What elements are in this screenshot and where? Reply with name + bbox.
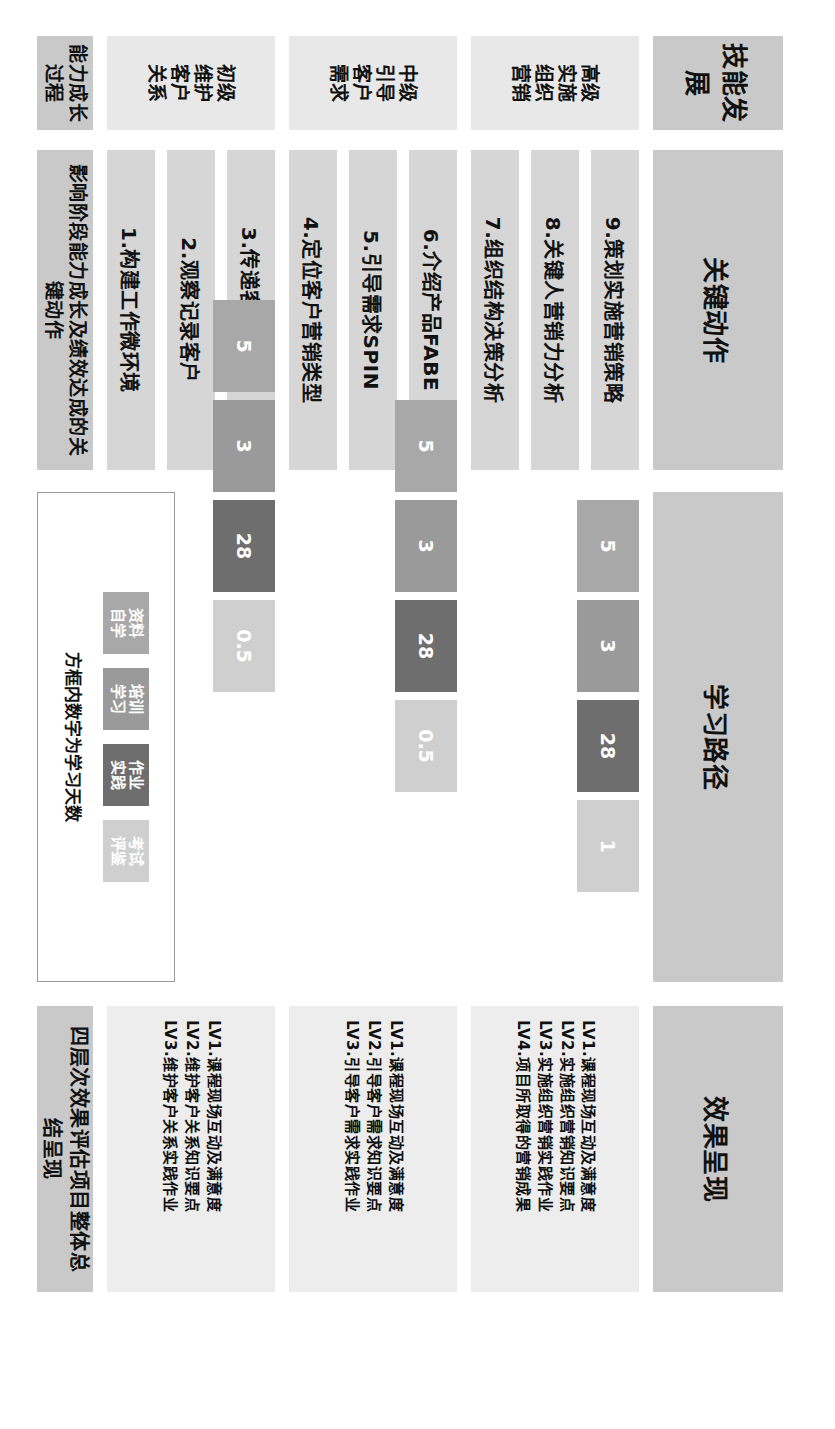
legend-chip-training: 培训 学习 <box>104 668 150 730</box>
action-item-4[interactable]: 4.定位客户营销类型 <box>289 150 337 470</box>
column-header-skill: 技能发展 <box>653 36 783 130</box>
outcome-summary: 四层次效果评估项目整体总结呈现 <box>37 1006 93 1292</box>
outcome-line: LV2.实施组织营销知识要点 <box>555 1020 577 1212</box>
level-label-growth-process: 能力成长过程 <box>37 36 93 130</box>
action-item-2[interactable]: 2.观察记录客户 <box>167 150 215 470</box>
legend-chips-row: 资料 自学 培训 学习 作业 实践 考试 评鉴 <box>104 592 150 882</box>
path-block-basic-exam[interactable]: 0.5 <box>213 600 275 692</box>
legend-chip-exam: 考试 评鉴 <box>104 820 150 882</box>
path-block-intermediate-practice[interactable]: 28 <box>395 600 457 692</box>
path-block-advanced-self-study[interactable]: 5 <box>577 500 639 592</box>
outcome-line: LV2.维护客户关系知识要点 <box>180 1020 202 1212</box>
action-item-9[interactable]: 9.策划实施营销策略 <box>591 150 639 470</box>
outcome-panel-intermediate: LV1.课程现场互动及满意度 LV2.引导客户需求知识要点 LV3.引导客户需求… <box>289 1006 457 1292</box>
outcome-line: LV3.引导客户需求实践作业 <box>340 1020 362 1212</box>
path-block-intermediate-self-study[interactable]: 5 <box>395 400 457 492</box>
path-block-intermediate-exam[interactable]: 0.5 <box>395 700 457 792</box>
rotated-diagram-wrapper: 技能发展 关键动作 学习路径 效果呈现 高级 实施 组织 营销 中级 引导 客户… <box>0 0 835 1429</box>
path-block-basic-self-study[interactable]: 5 <box>213 300 275 392</box>
outcome-line: LV3.维护客户关系实践作业 <box>158 1020 180 1212</box>
path-block-advanced-training[interactable]: 3 <box>577 600 639 692</box>
outcome-panel-advanced: LV1.课程现场互动及满意度 LV2.实施组织营销知识要点 LV3.实施组织营销… <box>471 1006 639 1292</box>
path-block-intermediate-training[interactable]: 3 <box>395 500 457 592</box>
legend: 资料 自学 培训 学习 作业 实践 考试 评鉴 方框内数字为学习天数 <box>37 492 175 982</box>
outcome-line: LV3.实施组织营销实践作业 <box>533 1020 555 1212</box>
path-block-advanced-practice[interactable]: 28 <box>577 700 639 792</box>
action-item-8[interactable]: 8.关键人营销力分析 <box>531 150 579 470</box>
bottom-summary-actions: 影响阶段能力成长及绩效达成的关键动作 <box>37 150 93 470</box>
outcome-line: LV2.引导客户需求知识要点 <box>362 1020 384 1212</box>
action-item-1[interactable]: 1.构建工作微环境 <box>107 150 155 470</box>
column-header-path: 学习路径 <box>653 492 783 982</box>
outcome-line: LV1.课程现场互动及满意度 <box>202 1020 224 1212</box>
column-header-outcome: 效果呈现 <box>653 1006 783 1292</box>
level-label-basic: 初级 维护 客户 关系 <box>107 36 275 130</box>
action-item-5[interactable]: 5.引导需求SPIN <box>349 150 397 470</box>
level-label-intermediate: 中级 引导 客户 需求 <box>289 36 457 130</box>
legend-chip-self-study: 资料 自学 <box>104 592 150 654</box>
action-item-7[interactable]: 7.组织结构决策分析 <box>471 150 519 470</box>
legend-chip-practice: 作业 实践 <box>104 744 150 806</box>
level-label-advanced: 高级 实施 组织 营销 <box>471 36 639 130</box>
path-block-basic-training[interactable]: 3 <box>213 400 275 492</box>
legend-note: 方框内数字为学习天数 <box>63 652 88 822</box>
outcome-line: LV1.课程现场互动及满意度 <box>577 1020 599 1212</box>
outcome-line: LV4.项目所取得的营销成果 <box>512 1020 534 1212</box>
outcome-panel-basic: LV1.课程现场互动及满意度 LV2.维护客户关系知识要点 LV3.维护客户关系… <box>107 1006 275 1292</box>
column-header-actions: 关键动作 <box>653 150 783 470</box>
outcome-line: LV1.课程现场互动及满意度 <box>384 1020 406 1212</box>
path-block-basic-practice[interactable]: 28 <box>213 500 275 592</box>
path-block-advanced-exam[interactable]: 1 <box>577 800 639 892</box>
competency-growth-diagram: 技能发展 关键动作 学习路径 效果呈现 高级 实施 组织 营销 中级 引导 客户… <box>0 0 835 1429</box>
